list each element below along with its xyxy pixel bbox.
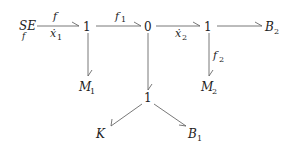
node-b1: B	[187, 127, 197, 141]
node-b2: B	[264, 20, 274, 34]
bond-1c-to-b1	[154, 104, 186, 126]
edge-label-f2-subscript: 2	[219, 55, 224, 64]
edge-label-x2: ẋ	[175, 27, 182, 40]
node-m2-subscript: 2	[212, 87, 217, 96]
node-junction-1a: 1	[83, 20, 91, 34]
bond-0-to-1	[156, 22, 200, 26]
node-junction-1c: 1	[144, 91, 152, 105]
bond-se-to-1	[37, 22, 79, 26]
node-junction-1b: 1	[204, 20, 212, 34]
bond-1-to-m1	[88, 33, 92, 76]
bond-graph-diagram: SE f 1 0 1 B 2 M 1 1 M 2 K B 1 f ẋ 1 f 1…	[0, 0, 294, 145]
edge-label-f1: f	[114, 10, 121, 23]
edge-label-x1-subscript: 1	[57, 33, 62, 42]
edge-label-f: f	[52, 10, 59, 23]
edge-label-f2: f	[212, 49, 219, 62]
node-k: K	[95, 127, 106, 141]
edge-label-x1: ẋ	[50, 27, 57, 40]
edge-label-x2-subscript: 2	[182, 33, 187, 42]
bond-1-to-b2	[217, 22, 262, 26]
node-b1-subscript: 1	[197, 134, 202, 143]
bond-0-to-1c	[148, 33, 152, 90]
bond-1c-to-k	[111, 104, 142, 126]
node-m1-subscript: 1	[90, 87, 95, 96]
edge-label-f1-subscript: 1	[121, 15, 126, 24]
node-junction-0: 0	[144, 20, 152, 34]
node-b2-subscript: 2	[274, 27, 279, 36]
